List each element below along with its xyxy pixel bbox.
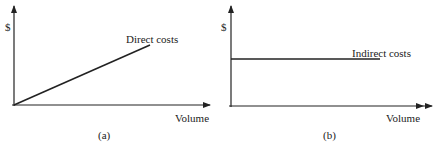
panel-a-caption: (a) [98, 129, 110, 141]
panel-a-y-label: $ [5, 21, 11, 33]
panel-b-x-axis-arrow-2 [416, 103, 424, 109]
panel-a-axes [12, 6, 210, 106]
direct-costs-line [14, 45, 150, 105]
panel-b-caption: (b) [323, 129, 336, 141]
panel-b-y-label: $ [221, 21, 227, 33]
direct-costs-label: Direct costs [126, 33, 178, 45]
panel-b-x-label: Volume [386, 112, 420, 124]
panel-a-x-label: Volume [175, 112, 209, 124]
diagram-canvas [0, 0, 437, 146]
indirect-costs-label: Indirect costs [352, 47, 411, 59]
